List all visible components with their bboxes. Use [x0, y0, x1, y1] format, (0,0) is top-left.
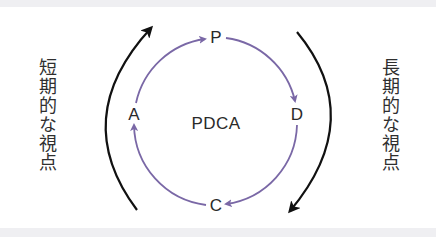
node-act: A [128, 106, 139, 123]
center-label: PDCA [191, 115, 240, 132]
node-do: D [291, 106, 303, 123]
long-term-perspective-label: 長期的な視点 [380, 58, 398, 172]
short-term-perspective-label: 短期的な視点 [37, 58, 55, 172]
cycle-arrow-d-to-c [226, 125, 297, 204]
cycle-arrow-a-to-p [136, 39, 205, 103]
cycle-arrow-p-to-d [226, 38, 295, 101]
cycle-arrow-c-to-a [134, 125, 206, 205]
node-plan: P [210, 29, 221, 46]
node-check: C [210, 197, 222, 214]
